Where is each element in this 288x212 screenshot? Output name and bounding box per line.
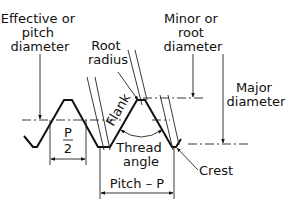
section-line — [87, 77, 104, 150]
flank-label: Flank — [103, 91, 134, 129]
minor-diameter-label: Minor or root diameter — [164, 11, 224, 54]
thread-diagram: Effective or pitch diameter Root radius … — [0, 0, 288, 212]
half-pitch-numerator: P — [64, 125, 72, 140]
crest-leader — [177, 148, 198, 170]
thread-angle-arc — [121, 130, 162, 137]
root-radius-label: Root radius — [88, 38, 128, 67]
thread-angle-label: Thread angle — [115, 140, 166, 169]
section-line — [135, 50, 147, 100]
pitch-label: Pitch – P — [110, 176, 164, 191]
major-diameter-label: Major diameter — [227, 80, 287, 109]
half-pitch-denominator: 2 — [64, 141, 72, 156]
crest-label: Crest — [199, 163, 233, 178]
effective-diameter-label: Effective or pitch diameter — [1, 11, 79, 54]
